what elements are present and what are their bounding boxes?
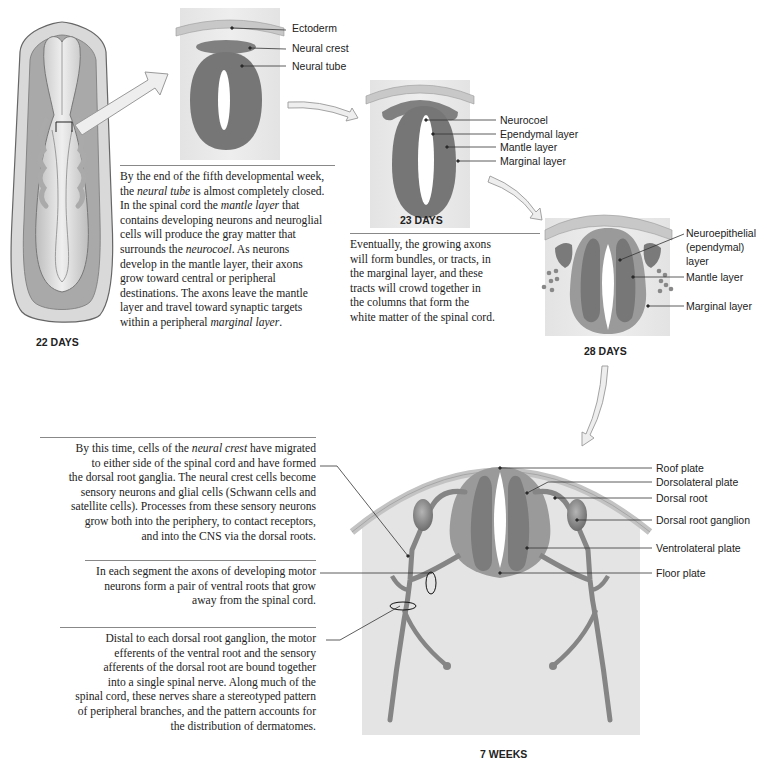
paragraph-lines: Eventually, the growing axonswill form b…: [350, 238, 540, 326]
stage-label-7-weeks: 7 WEEKS: [480, 748, 527, 760]
paragraph-spinal-nerve: Distal to each dorsal root ganglion, the…: [60, 627, 316, 734]
paragraph-line: the columns that form the: [350, 296, 540, 311]
embryo-22-days-illustration: [11, 22, 113, 322]
paragraph-line: By the end of the fifth developmental we…: [120, 170, 335, 185]
paragraph-lines: In each segment the axons of developing …: [85, 565, 316, 609]
label-marginal-layer-23: Marginal layer: [500, 155, 566, 167]
paragraph-fifth-week: By the end of the fifth developmental we…: [120, 165, 335, 331]
paragraph-line: surrounds the neurocoel. As neurons: [120, 243, 335, 258]
paragraph-line: of peripheral branches, and the pattern …: [60, 705, 316, 720]
paragraph-line: afferents of the dorsal root are bound t…: [60, 661, 316, 676]
paragraph-axon-tracts: Eventually, the growing axonswill form b…: [350, 233, 540, 326]
divider: [350, 233, 540, 234]
paragraph-line: contains developing neurons and neurogli…: [120, 214, 335, 229]
label-neuroepithelial-2: (ependymal): [686, 241, 744, 253]
stage-label-28-days: 28 DAYS: [584, 345, 627, 357]
divider: [60, 627, 316, 628]
label-ependymal-layer: Ependymal layer: [500, 128, 579, 140]
label-neural-crest: Neural crest: [292, 42, 349, 54]
paragraph-lines: By this time, cells of the neural crest …: [40, 442, 316, 544]
paragraph-line: In the spinal cord the mantle layer that: [120, 199, 335, 214]
paragraph-line: spinal cord, these nerves share a stereo…: [60, 690, 316, 705]
label-mantle-layer-28: Mantle layer: [686, 271, 744, 283]
paragraph-line: neurons form a pair of ventral roots tha…: [85, 580, 316, 595]
label-ventrolateral-plate: Ventrolateral plate: [656, 542, 741, 554]
label-neuroepithelial-1: Neuroepithelial: [686, 227, 756, 239]
paragraph-line: grow both into the periphery, to contact…: [40, 515, 316, 530]
paragraph-line: into a single spinal nerve. Along much o…: [60, 676, 316, 691]
paragraph-ventral-roots: In each segment the axons of developing …: [85, 560, 316, 609]
paragraph-line: within a peripheral marginal layer.: [120, 316, 335, 331]
label-ectoderm: Ectoderm: [292, 22, 337, 34]
label-dorsal-root: Dorsal root: [656, 492, 707, 504]
paragraph-line: tracts will crowd together in: [350, 282, 540, 297]
label-marginal-layer-28: Marginal layer: [686, 300, 752, 312]
paragraph-line: white matter of the spinal cord.: [350, 311, 540, 326]
cross-section-28-days: [542, 215, 674, 336]
paragraph-line: the neural tube is almost completely clo…: [120, 185, 335, 200]
label-dorsolateral-plate: Dorsolateral plate: [656, 476, 738, 488]
stage-label-23-days: 23 DAYS: [400, 214, 443, 226]
paragraph-line: the distribution of dermatomes.: [60, 720, 316, 735]
paragraph-line: the marginal layer, and these: [350, 267, 540, 282]
cross-section-neural-tube-early: [176, 8, 284, 160]
paragraph-line: will form bundles, or tracts, in: [350, 253, 540, 268]
paragraph-line: efferents of the ventral root and the se…: [60, 647, 316, 662]
label-dorsal-root-ganglion: Dorsal root ganglion: [656, 514, 750, 526]
label-neuroepithelial-3: layer: [686, 255, 709, 267]
paragraph-line: the dorsal root ganglia. The neural cres…: [40, 471, 316, 486]
paragraph-line: to either side of the spinal cord and ha…: [40, 457, 316, 472]
transition-arrow-23: [288, 102, 358, 121]
transition-arrow-7-weeks: [582, 366, 608, 446]
cross-section-7-weeks: [352, 467, 650, 735]
paragraph-lines: Distal to each dorsal root ganglion, the…: [60, 632, 316, 734]
paragraph-line: develop in the mantle layer, their axons: [120, 258, 335, 273]
paragraph-line: Eventually, the growing axons: [350, 238, 540, 253]
divider: [120, 165, 335, 166]
paragraph-line: satellite cells). Processes from these s…: [40, 500, 316, 515]
cross-section-23-days: [366, 80, 474, 228]
paragraph-line: Distal to each dorsal root ganglion, the…: [60, 632, 316, 647]
label-neurocoel: Neurocoel: [500, 114, 548, 126]
paragraph-line: sensory neurons and glial cells (Schwann…: [40, 486, 316, 501]
label-mantle-layer-23: Mantle layer: [500, 141, 558, 153]
paragraph-line: layer and travel toward synaptic targets: [120, 301, 335, 316]
paragraph-lines: By the end of the fifth developmental we…: [120, 170, 335, 331]
paragraph-neural-crest-migration: By this time, cells of the neural crest …: [40, 437, 316, 544]
label-roof-plate: Roof plate: [656, 462, 704, 474]
divider: [85, 560, 316, 561]
paragraph-line: cells will produce the gray matter that: [120, 228, 335, 243]
stage-label-22-days: 22 DAYS: [36, 336, 79, 348]
label-neural-tube: Neural tube: [292, 60, 346, 72]
paragraph-line: and into the CNS via the dorsal roots.: [40, 530, 316, 545]
paragraph-line: By this time, cells of the neural crest …: [40, 442, 316, 457]
label-floor-plate: Floor plate: [656, 567, 706, 579]
paragraph-line: destinations. The axons leave the mantle: [120, 287, 335, 302]
paragraph-line: away from the spinal cord.: [85, 594, 316, 609]
divider: [40, 437, 316, 438]
transition-arrow-28: [488, 176, 542, 220]
paragraph-line: grow toward central or peripheral: [120, 272, 335, 287]
paragraph-line: In each segment the axons of developing …: [85, 565, 316, 580]
